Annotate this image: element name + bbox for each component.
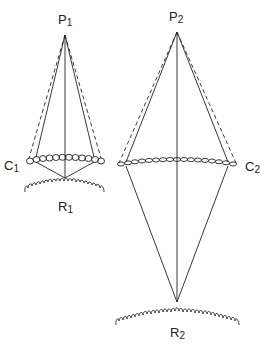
labels: P1 P2 C1 C2 R1 R2 bbox=[4, 9, 260, 341]
retina-r1 bbox=[25, 178, 104, 192]
label-r1: R1 bbox=[58, 199, 73, 215]
ray-right-solid-2 bbox=[177, 32, 228, 162]
optics-diagram: P1 P2 C1 C2 R1 R2 bbox=[0, 0, 269, 345]
label-p2: P2 bbox=[169, 9, 184, 25]
ray-converge-right-1 bbox=[65, 162, 94, 178]
ray-left-solid-2 bbox=[126, 32, 177, 162]
ray-left-dashed-2 bbox=[119, 32, 177, 163]
system-2 bbox=[116, 32, 239, 325]
ray-right-solid-1 bbox=[65, 35, 94, 157]
retina-r2 bbox=[116, 308, 239, 325]
ray-left-dashed-1 bbox=[29, 35, 65, 158]
ray-converge-left-2 bbox=[126, 166, 177, 302]
system-1 bbox=[25, 35, 105, 192]
label-r2: R2 bbox=[170, 325, 185, 341]
ray-converge-left-1 bbox=[36, 162, 65, 178]
label-c2: C2 bbox=[245, 159, 260, 175]
label-c1: C1 bbox=[4, 158, 19, 174]
ray-right-dashed-2 bbox=[177, 32, 236, 163]
ray-converge-right-2 bbox=[177, 166, 228, 302]
label-p1: P1 bbox=[58, 12, 73, 28]
lens-c1 bbox=[27, 154, 105, 164]
ray-right-dashed-1 bbox=[65, 35, 101, 158]
ray-left-solid-1 bbox=[36, 35, 65, 157]
